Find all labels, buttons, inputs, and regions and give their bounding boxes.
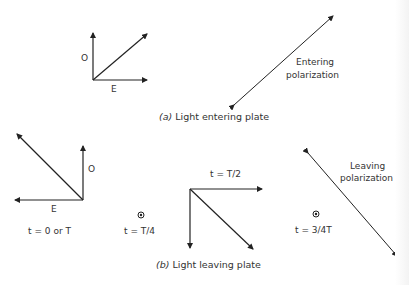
o-axis-label: O	[81, 53, 88, 64]
time-label-t0: t = 0 or T	[28, 226, 71, 237]
caption-a-prefix: (a)	[159, 111, 172, 122]
time-label-t-three-quarter: t = 3/4T	[295, 225, 332, 236]
dot-in-circle-icon	[313, 211, 319, 217]
leaving-t0-vectors	[15, 134, 83, 200]
leaving-t-half-vectors	[190, 189, 262, 249]
polarization-diagram	[0, 0, 409, 285]
page-edge-shading	[395, 0, 409, 285]
entering-components-vectors	[93, 33, 147, 80]
caption-a: (a) Light entering plate	[159, 111, 269, 122]
time-label-t-quarter: t = T/4	[124, 226, 155, 237]
entering-polarization-label-1: Entering	[296, 57, 334, 68]
caption-b: (b) Light leaving plate	[156, 259, 261, 270]
e-axis-label: E	[51, 204, 57, 215]
time-label-t-half: t = T/2	[210, 169, 241, 180]
caption-b-text: Light leaving plate	[172, 259, 260, 270]
e-axis-label: E	[111, 84, 117, 95]
leaving-polarization-label-2: polarization	[340, 173, 393, 184]
dot-in-circle-icon	[138, 212, 144, 218]
caption-a-text: Light entering plate	[175, 111, 269, 122]
caption-b-prefix: (b)	[156, 259, 169, 270]
o-axis-label: O	[88, 164, 95, 175]
leaving-polarization-label-1: Leaving	[350, 161, 385, 172]
entering-polarization-label-2: polarization	[286, 70, 339, 81]
